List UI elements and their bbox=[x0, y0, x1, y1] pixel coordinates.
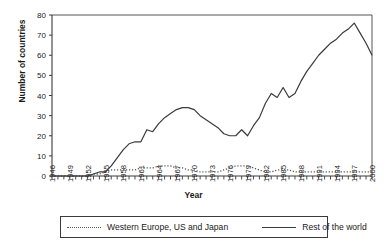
x-axis-title: Year bbox=[0, 190, 387, 200]
x-tick-label: 1949 bbox=[66, 165, 75, 182]
y-tick-label: 70 bbox=[37, 31, 46, 40]
chart-container: Number of countries 01020304050607080194… bbox=[0, 0, 387, 244]
x-tick-label: 1997 bbox=[350, 165, 359, 182]
x-tick-label: 1982 bbox=[262, 165, 271, 182]
x-tick-label: 1985 bbox=[279, 165, 288, 182]
legend-swatch-solid-icon bbox=[262, 223, 296, 232]
x-tick-label: 1958 bbox=[119, 165, 128, 182]
y-tick-label: 80 bbox=[37, 11, 46, 20]
legend-swatch-dotted-icon bbox=[67, 223, 101, 232]
x-tick-label: 1979 bbox=[244, 165, 253, 182]
legend-label-rest-of-the-world: Rest of the world bbox=[302, 222, 366, 232]
series-line-rest-of-the-world bbox=[52, 23, 372, 176]
legend-item-rest-of-the-world: Rest of the world bbox=[262, 222, 366, 232]
y-tick-label: 20 bbox=[37, 132, 46, 141]
x-tick-label: 2000 bbox=[368, 165, 377, 182]
x-tick-label: 1988 bbox=[297, 165, 306, 182]
x-tick-label: 1952 bbox=[84, 165, 93, 182]
chart-legend: Western Europe, US and Japan Rest of the… bbox=[60, 216, 328, 238]
x-tick-label: 1994 bbox=[333, 165, 342, 182]
y-tick-label: 40 bbox=[37, 92, 46, 101]
x-tick-label: 1970 bbox=[190, 165, 199, 182]
y-tick-label: 10 bbox=[37, 152, 46, 161]
legend-item-western-europe-us-japan: Western Europe, US and Japan bbox=[67, 222, 228, 232]
x-tick-label: 1946 bbox=[48, 165, 57, 182]
x-tick-label: 1991 bbox=[315, 165, 324, 182]
x-tick-label: 1964 bbox=[155, 165, 164, 182]
legend-label-western-europe-us-japan: Western Europe, US and Japan bbox=[107, 222, 228, 232]
y-tick-label: 50 bbox=[37, 71, 46, 80]
y-tick-label: 60 bbox=[37, 51, 46, 60]
chart-plot-area: 0102030405060708019461949195219551958196… bbox=[0, 0, 387, 244]
x-tick-label: 1973 bbox=[208, 165, 217, 182]
y-tick-label: 30 bbox=[37, 112, 46, 121]
y-tick-label: 0 bbox=[42, 172, 47, 181]
x-tick-label: 1976 bbox=[226, 165, 235, 182]
